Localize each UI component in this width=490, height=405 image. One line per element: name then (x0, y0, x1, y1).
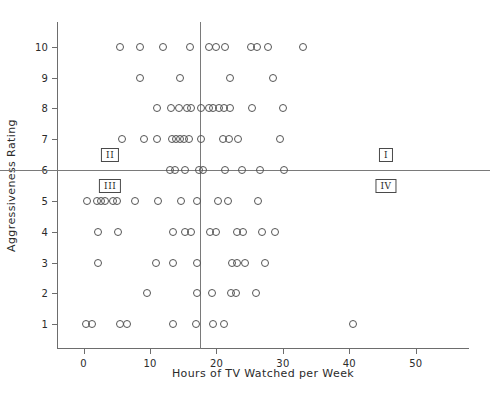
data-point (254, 197, 262, 205)
data-point (113, 197, 121, 205)
y-tick-mark (52, 108, 57, 109)
data-point (116, 43, 124, 51)
y-tick-mark (52, 293, 57, 294)
data-point (252, 289, 260, 297)
data-point (169, 320, 177, 328)
x-tick-mark (84, 349, 85, 354)
vertical-reference-line (200, 22, 201, 349)
y-tick-label: 9 (41, 72, 48, 83)
data-point (143, 289, 151, 297)
data-point (256, 166, 264, 174)
data-point (226, 74, 234, 82)
y-tick-label: 4 (41, 226, 48, 237)
data-point (153, 135, 161, 143)
y-tick-mark (52, 263, 57, 264)
data-point (186, 43, 194, 51)
data-point (193, 259, 201, 267)
data-point (177, 197, 185, 205)
y-tick-label: 7 (41, 134, 48, 145)
scatter-plot-figure: Aggressiveness Rating 12345678910 010203… (0, 0, 490, 405)
data-point (234, 135, 242, 143)
data-point (205, 43, 213, 51)
data-point (269, 74, 277, 82)
data-point (208, 289, 216, 297)
data-point (101, 197, 109, 205)
data-point (175, 104, 183, 112)
data-point (271, 228, 279, 236)
data-point (225, 135, 233, 143)
data-point (349, 320, 357, 328)
data-point (199, 166, 207, 174)
data-point (187, 228, 195, 236)
data-point (224, 197, 232, 205)
data-point (276, 135, 284, 143)
data-point (280, 166, 288, 174)
data-point (226, 104, 234, 112)
quadrant-label-iii: III (99, 179, 121, 193)
data-point (131, 197, 139, 205)
data-point (299, 43, 307, 51)
x-tick-mark (216, 349, 217, 354)
y-tick-label: 5 (41, 195, 48, 206)
data-point (152, 259, 160, 267)
data-point (212, 43, 220, 51)
data-point (214, 197, 222, 205)
data-point (258, 228, 266, 236)
data-point (83, 197, 91, 205)
y-tick-label: 10 (35, 41, 48, 52)
data-point (241, 259, 249, 267)
plot-area: 12345678910 01020304050 IIIIIIIV (57, 22, 469, 349)
data-point (140, 135, 148, 143)
data-point (187, 104, 195, 112)
data-point (181, 166, 189, 174)
data-point (185, 135, 193, 143)
y-tick-mark (52, 47, 57, 48)
data-point (153, 104, 161, 112)
data-point (253, 43, 261, 51)
y-tick-label: 3 (41, 257, 48, 268)
data-point (94, 228, 102, 236)
y-tick-mark (52, 139, 57, 140)
quadrant-label-iv: IV (375, 179, 396, 193)
x-tick-mark (349, 349, 350, 354)
quadrant-label-ii: II (101, 148, 119, 162)
y-axis-title-text: Aggressiveness Rating (5, 119, 18, 252)
data-point (197, 135, 205, 143)
x-axis-line (57, 348, 469, 349)
y-tick-label: 8 (41, 103, 48, 114)
data-point (261, 259, 269, 267)
x-tick-mark (150, 349, 151, 354)
y-tick-mark (52, 201, 57, 202)
data-point (264, 43, 272, 51)
data-point (94, 259, 102, 267)
data-point (118, 135, 126, 143)
data-point (193, 197, 201, 205)
data-point (197, 104, 205, 112)
data-point (169, 228, 177, 236)
x-tick-mark (416, 349, 417, 354)
data-point (154, 197, 162, 205)
data-point (114, 228, 122, 236)
data-point (136, 74, 144, 82)
data-point (221, 43, 229, 51)
data-point (220, 320, 228, 328)
quadrant-label-i: I (379, 148, 393, 162)
data-point (239, 228, 247, 236)
y-tick-mark (52, 324, 57, 325)
data-point (171, 166, 179, 174)
x-axis-title-text: Hours of TV Watched per Week (172, 367, 354, 380)
data-point (123, 320, 131, 328)
y-tick-mark (52, 78, 57, 79)
data-point (212, 228, 220, 236)
x-tick-mark (283, 349, 284, 354)
data-point (159, 43, 167, 51)
y-tick-label: 1 (41, 319, 48, 330)
y-axis-line (57, 22, 58, 349)
data-point (88, 320, 96, 328)
data-point (238, 166, 246, 174)
x-axis-title: Hours of TV Watched per Week (57, 367, 469, 380)
data-point (192, 320, 200, 328)
data-point (136, 43, 144, 51)
data-point (169, 259, 177, 267)
y-tick-mark (52, 232, 57, 233)
